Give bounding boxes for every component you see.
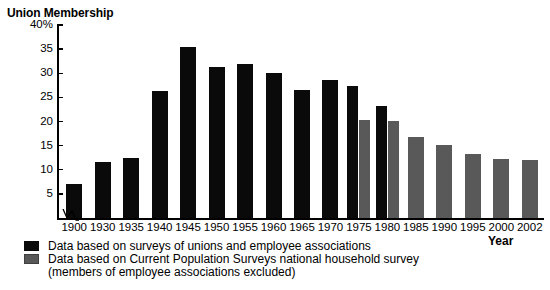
x-axis-line [57,218,544,220]
bar-1945-black [180,47,196,218]
chart-legend: Data based on surveys of unions and empl… [24,240,544,266]
bar-2002-gray [522,160,538,218]
bar-1970-black [322,80,338,218]
bar-1950-black [209,67,225,218]
bar-1955-black [237,64,253,218]
bar-1990-gray [436,145,452,218]
bar-1940-black [152,91,168,218]
legend-note-line: (members of employee associations exclud… [48,266,295,279]
bar-1930-black [95,162,111,218]
bar-1935-black [123,158,139,218]
bar-1975-black [347,86,358,218]
bar-1965-black [294,90,310,218]
bar-1975-gray [359,120,370,218]
axis-break-icon [62,209,80,225]
bar-1980-black [376,106,387,218]
union-membership-chart: Union Membership 40%3530252015105 190019… [0,0,550,290]
x-tick-label-2002: 2002 [513,221,547,233]
legend-swatch-black-icon [24,241,39,251]
bar-1985-gray [408,137,424,218]
bar-1960-black [266,73,282,218]
bar-1995-gray [465,154,481,218]
bar-1980-gray [388,121,399,218]
bar-2000-gray [493,159,509,218]
legend-swatch-gray-icon [24,254,39,264]
